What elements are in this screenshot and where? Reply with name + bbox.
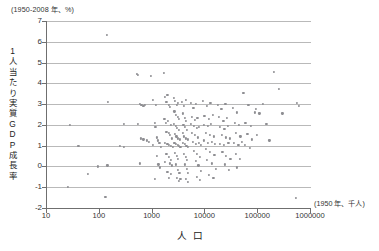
y-axis-tick-labels: -2-101234567 [18,21,42,208]
x-axis-title-left: 人 [177,230,187,241]
x-axis-tick-labels: 101001000100001000001000000 [46,0,310,251]
x-axis-title: 人口 [0,228,379,242]
y-axis-tick-label: 3 [18,99,42,108]
x-axis-tick-label: 10 [42,211,50,220]
x-axis-tick-label: 10000 [194,211,215,220]
y-axis-tick-label: 4 [18,78,42,87]
y-axis-tick-label: 5 [18,58,42,67]
x-axis-tick-label: 1000000 [295,211,325,220]
x-axis-tick-label: 1000 [143,211,160,220]
x-axis-tick-label: 100000 [245,211,270,220]
y-axis-tick-label: 6 [18,37,42,46]
y-axis-tick-label: 0 [18,161,42,170]
y-axis-tick-label: -1 [18,182,42,191]
y-axis-tick-label: 1 [18,141,42,150]
y-axis-tick-label: 2 [18,120,42,129]
x-axis-title-right: 口 [193,230,203,241]
x-axis-unit-note: (1950 年、千人) [314,198,365,208]
y-axis-tick-label: -2 [18,203,42,212]
x-axis-tick-label: 100 [92,211,105,220]
y-axis-tick-label: 7 [18,16,42,25]
scatter-chart-figure: (1950-2008 年、%) 1人当たり実質GDP成長率 -2-1012345… [0,0,379,251]
